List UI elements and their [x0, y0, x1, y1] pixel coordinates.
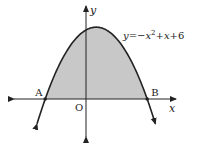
eq-minus: − — [137, 30, 145, 41]
eq-equals: = — [129, 30, 137, 41]
equation-label: y=−x2+x+6 — [122, 29, 184, 41]
eq-plus1: + — [156, 30, 164, 41]
point-label-b: B — [151, 87, 158, 98]
eq-const: 6 — [178, 30, 184, 41]
x-axis-label: x — [169, 102, 176, 115]
parabola-diagram: AB y x O y=−x2+x+6 — [0, 0, 208, 146]
eq-plus2: + — [170, 30, 178, 41]
point-a — [43, 97, 47, 101]
point-label-a: A — [34, 87, 43, 98]
point-b — [145, 97, 149, 101]
origin-label: O — [75, 102, 83, 113]
diagram: AB y x O y=−x2+x+6 — [0, 0, 208, 146]
y-axis-label: y — [89, 4, 97, 17]
